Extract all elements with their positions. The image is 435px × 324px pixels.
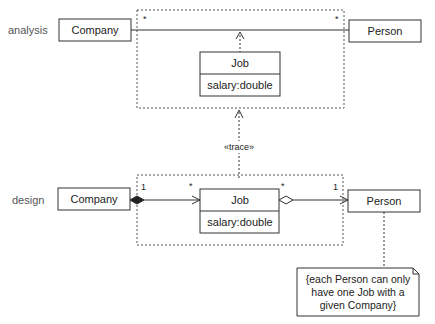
svg-text:{each Person can only: {each Person can only [306, 273, 411, 285]
svg-text:Job: Job [231, 194, 249, 206]
design-job-class[interactable]: Job salary:double [200, 189, 279, 233]
design-mult-job-left: * [189, 181, 193, 191]
svg-text:have one Job with a: have one Job with a [311, 286, 405, 298]
hollow-diamond-icon [279, 196, 293, 204]
svg-text:Company: Company [71, 24, 119, 36]
svg-text:Job: Job [231, 57, 249, 69]
design-mult-person: 1 [333, 182, 338, 192]
design-mult-company: 1 [141, 182, 146, 192]
design-person-class[interactable]: Person [348, 190, 420, 212]
svg-text:Company: Company [70, 193, 118, 205]
layer-label-design: design [12, 194, 44, 206]
design-mult-job-right: * [281, 181, 285, 191]
analysis-job-class[interactable]: Job salary:double [200, 52, 280, 96]
constraint-note[interactable]: {each Person can only have one Job with … [297, 268, 419, 316]
design-company-class[interactable]: Company [58, 188, 130, 210]
svg-text:salary:double: salary:double [207, 79, 272, 91]
layer-label-analysis: analysis [8, 24, 48, 36]
analysis-mult-right: * [335, 14, 339, 24]
analysis-mult-left: * [143, 14, 147, 24]
analysis-person-class[interactable]: Person [349, 20, 421, 42]
analysis-company-class[interactable]: Company [59, 19, 131, 41]
svg-text:Person: Person [368, 25, 403, 37]
filled-diamond-icon [130, 196, 144, 204]
svg-text:salary:double: salary:double [207, 216, 272, 228]
uml-diagram: analysis Company * * Person Job salary:d… [0, 0, 435, 324]
svg-text:given Company}: given Company} [320, 299, 397, 311]
trace-stereotype: «trace» [224, 142, 254, 152]
svg-text:Person: Person [367, 195, 402, 207]
